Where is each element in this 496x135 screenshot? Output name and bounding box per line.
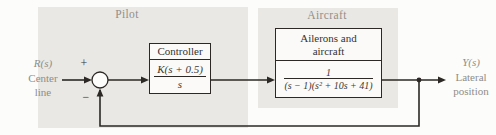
block-diagram: Pilot Aircraft R(s) Center line + − Cont…	[0, 0, 496, 135]
controller-denominator: s	[154, 77, 206, 90]
output-signal-label: Y(s) Lateral position	[446, 55, 496, 99]
controller-numerator: K(s + 0.5)	[154, 63, 206, 77]
input-signal-symbol: R(s)	[20, 56, 66, 71]
controller-transfer-function: K(s + 0.5) s	[154, 63, 206, 90]
aircraft-block: Ailerons and aircraft 1 (s − 1)(s² + 10s…	[275, 28, 382, 98]
output-desc-line2: position	[446, 84, 496, 99]
aircraft-block-title: Ailerons and aircraft	[276, 29, 381, 61]
aircraft-title-line1: Ailerons and	[278, 32, 379, 45]
signal-wires	[0, 0, 496, 135]
minus-sign: −	[80, 91, 92, 103]
aircraft-denominator: (s − 1)(s² + 10s + 41)	[284, 79, 372, 92]
plus-sign: +	[78, 57, 90, 69]
controller-block: Controller K(s + 0.5) s	[149, 43, 211, 94]
controller-arrowhead-icon	[141, 77, 149, 84]
aircraft-numerator: 1	[284, 67, 372, 80]
aircraft-region-label: Aircraft	[292, 9, 362, 21]
aircraft-transfer-function: 1 (s − 1)(s² + 10s + 41)	[284, 67, 372, 92]
pilot-region-label: Pilot	[97, 8, 157, 20]
input-desc-line2: line	[20, 85, 66, 100]
output-arrowhead-icon	[438, 77, 446, 84]
controller-title: Controller	[150, 44, 210, 60]
input-arrowhead-icon	[84, 77, 92, 84]
summing-junction	[92, 72, 108, 88]
input-desc-line1: Center	[20, 71, 66, 86]
plant-arrowhead-icon	[267, 77, 275, 84]
output-desc-line1: Lateral	[446, 70, 496, 85]
input-signal-label: R(s) Center line	[20, 56, 66, 100]
feedback-arrowhead-icon	[97, 89, 104, 97]
output-signal-symbol: Y(s)	[446, 55, 496, 70]
aircraft-title-line2: aircraft	[278, 45, 379, 58]
